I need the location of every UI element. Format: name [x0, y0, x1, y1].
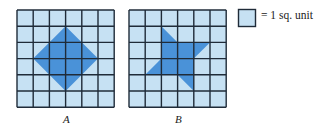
legend-swatch [239, 10, 256, 27]
label-a: A [63, 113, 70, 125]
grid-a [17, 10, 114, 107]
grid-b [129, 10, 226, 107]
legend-text: = 1 sq. unit [261, 9, 313, 21]
label-b: B [175, 113, 182, 125]
